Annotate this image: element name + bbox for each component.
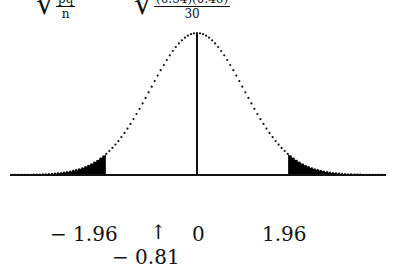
label-test-stat: − 0.81 — [112, 245, 180, 269]
label-center: 0 — [192, 222, 205, 246]
arrow-icon: ↑ — [150, 220, 167, 244]
normal-curve — [15, 32, 383, 176]
label-neg-critical: − 1.96 — [50, 222, 118, 246]
left-rejection-region — [13, 154, 106, 175]
label-pos-critical: 1.96 — [262, 222, 307, 246]
right-rejection-region — [288, 154, 383, 175]
